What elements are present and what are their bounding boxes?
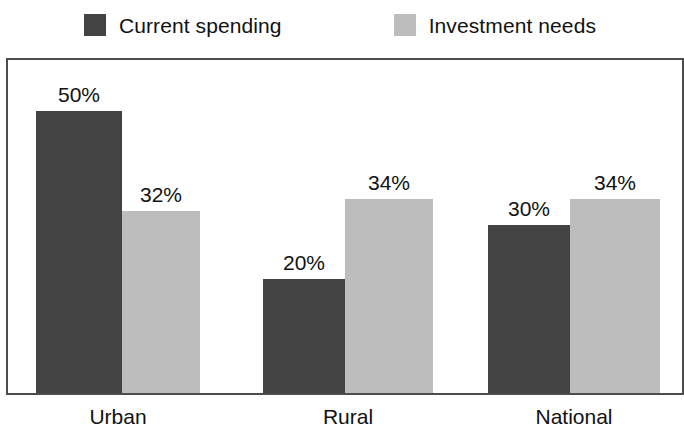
legend-swatch-investment-needs-icon — [394, 14, 416, 36]
legend-swatch-current-spending-icon — [84, 14, 106, 36]
plot-area: 50%32%20%34%30%34% — [8, 60, 682, 393]
bar — [36, 111, 122, 393]
bar — [488, 225, 570, 393]
legend-label-investment-needs: Investment needs — [429, 15, 596, 36]
legend-label-current-spending: Current spending — [119, 15, 282, 36]
bar — [570, 199, 660, 393]
category-axis: UrbanRuralNational — [0, 398, 680, 435]
legend-entry-investment-needs: Investment needs — [394, 14, 596, 36]
bar-value-label: 30% — [488, 198, 570, 219]
category-label-urban: Urban — [36, 406, 200, 427]
chart-legend: Current spending Investment needs — [0, 0, 680, 50]
plot-frame: 50%32%20%34%30%34% — [6, 58, 684, 395]
bar-value-label: 20% — [263, 252, 345, 273]
bar-value-label: 34% — [570, 172, 660, 193]
category-label-rural: Rural — [263, 406, 433, 427]
category-label-national: National — [488, 406, 660, 427]
bar — [122, 211, 200, 393]
bar — [345, 199, 433, 393]
bar-value-label: 34% — [345, 172, 433, 193]
bar-value-label: 50% — [36, 84, 122, 105]
bar-value-label: 32% — [122, 184, 200, 205]
bar — [263, 279, 345, 393]
legend-entry-current-spending: Current spending — [84, 14, 282, 36]
